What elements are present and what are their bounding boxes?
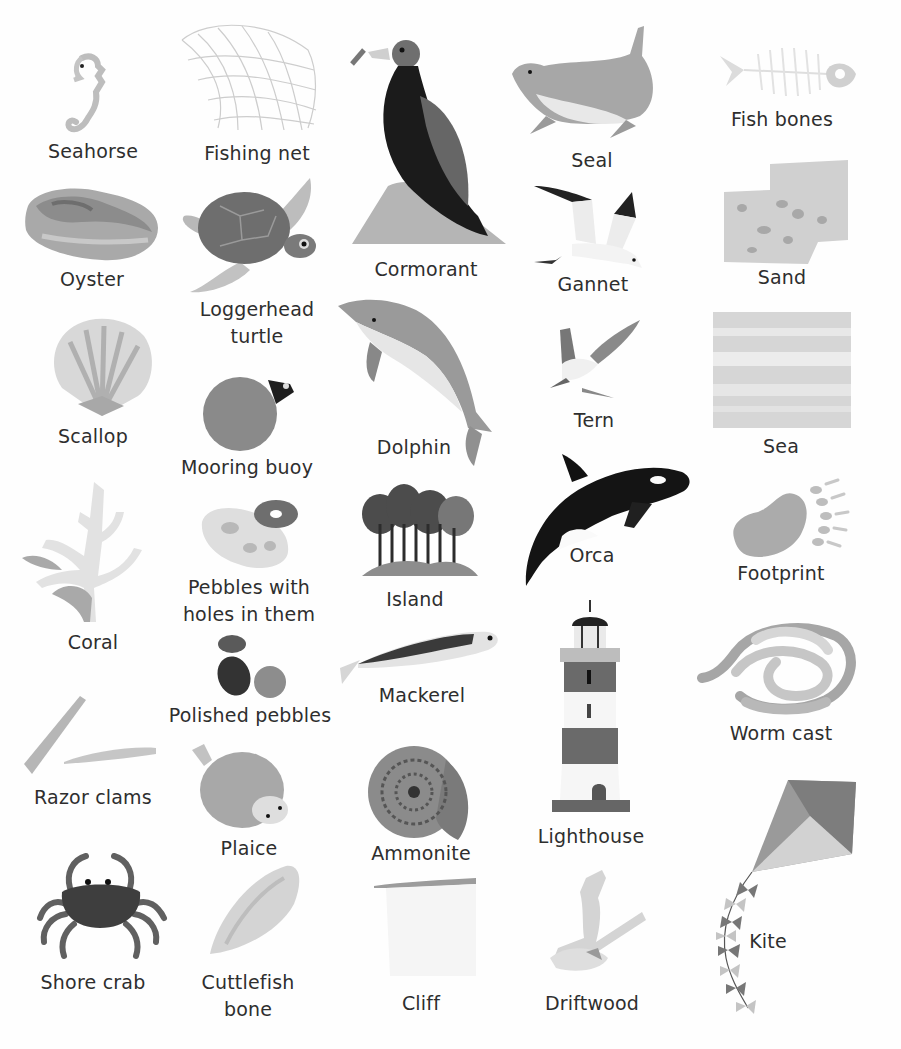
holed-pebbles-icon (198, 502, 302, 572)
polished-pebbles-icon (212, 634, 288, 700)
shore-crab-label: Shore crab (41, 969, 146, 996)
cormorant-icon (348, 36, 508, 254)
driftwood-label: Driftwood (545, 990, 639, 1017)
ammonite-icon (366, 740, 476, 844)
sand-icon (722, 160, 850, 264)
glossary-page: Seahorse Oyster (0, 0, 901, 1049)
gannet-icon (532, 184, 644, 280)
sea-icon (713, 312, 851, 428)
polished-pebbles-label: Polished pebbles (169, 702, 332, 729)
lighthouse-label: Lighthouse (538, 823, 645, 850)
tern-icon (548, 318, 644, 402)
oyster-label: Oyster (60, 266, 124, 293)
plaice-icon (190, 744, 294, 832)
coral-label: Coral (68, 629, 119, 656)
seal-icon (510, 24, 670, 144)
orca-label: Orca (569, 542, 614, 569)
fish-bones-icon (718, 44, 858, 108)
worm-cast-label: Worm cast (730, 720, 833, 747)
driftwood-icon (546, 868, 656, 974)
island-label: Island (386, 586, 444, 613)
footprint-label: Footprint (737, 560, 824, 587)
scallop-icon (48, 316, 156, 418)
seal-label: Seal (571, 147, 612, 174)
cormorant-label: Cormorant (374, 256, 477, 283)
turtle-icon (180, 176, 320, 296)
island-icon (360, 484, 480, 580)
fish-bones-label: Fish bones (731, 106, 833, 133)
worm-cast-icon (696, 616, 860, 716)
footprint-icon (730, 476, 850, 560)
razor-clams-label: Razor clams (34, 784, 152, 811)
gannet-label: Gannet (558, 271, 629, 298)
cuttlefish-bone-label: Cuttlefish bone (193, 969, 303, 1023)
kite-label: Kite (749, 928, 787, 955)
scallop-label: Scallop (58, 423, 128, 450)
mooring-buoy-label: Mooring buoy (181, 454, 313, 481)
dolphin-label: Dolphin (377, 434, 451, 461)
pebbles-with-holes-label: Pebbles with holes in them (169, 574, 329, 628)
oyster-icon (22, 186, 162, 266)
buoy-icon (202, 374, 297, 454)
cliff-icon (372, 876, 478, 980)
tern-label: Tern (574, 407, 614, 434)
fishing-net-label: Fishing net (204, 140, 310, 167)
kite-icon (712, 778, 860, 1014)
cliff-label: Cliff (402, 990, 440, 1017)
fishing-net-icon (178, 20, 320, 132)
loggerhead-turtle-label: Loggerhead turtle (192, 296, 322, 350)
seahorse-icon (62, 52, 112, 137)
plaice-label: Plaice (221, 835, 278, 862)
crab-icon (36, 852, 168, 958)
sea-label: Sea (763, 433, 799, 460)
ammonite-label: Ammonite (371, 840, 471, 867)
cuttlefish-bone-icon (206, 864, 302, 956)
razor-clams-icon (20, 692, 160, 782)
coral-icon (18, 478, 154, 624)
lighthouse-icon (548, 600, 632, 816)
mackerel-icon (338, 624, 500, 686)
mackerel-label: Mackerel (379, 682, 465, 709)
sand-label: Sand (758, 264, 807, 291)
seahorse-label: Seahorse (48, 138, 138, 165)
